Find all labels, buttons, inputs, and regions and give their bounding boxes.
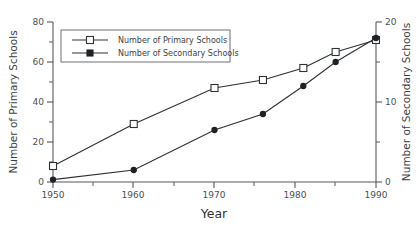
data-point (212, 127, 217, 132)
x-tick-label: 1990 (365, 190, 388, 200)
chart-canvas: 0 20 40 60 80 0 10 20 (0, 0, 420, 227)
x-axis-title: Year (200, 206, 228, 221)
legend-marker-secondary (87, 50, 93, 56)
data-point (130, 121, 137, 128)
y-left-tick-label: 0 (38, 177, 44, 187)
y-right-tick-label: 10 (385, 97, 397, 107)
y-axis-right-title: Number of Secondary Schools (400, 23, 412, 181)
data-point (333, 59, 338, 64)
x-tick-label: 1980 (284, 190, 307, 200)
x-tick-label: 1970 (203, 190, 226, 200)
y-left-tick-label: 20 (33, 137, 45, 147)
data-point (50, 163, 57, 170)
x-tick-label: 1950 (42, 190, 65, 200)
y-left-tick-label: 40 (33, 97, 45, 107)
data-point (50, 177, 55, 182)
data-point (211, 85, 218, 92)
legend-label-primary: Number of Primary Schools (118, 36, 227, 45)
y-left-tick-label: 60 (33, 57, 45, 67)
y-axis-left-title: Number of Primary Schools (7, 30, 19, 173)
data-point (300, 65, 307, 72)
data-point (301, 83, 306, 88)
legend-marker-primary (87, 37, 94, 44)
data-point (332, 49, 339, 56)
y-left-tick-label: 80 (33, 17, 45, 27)
chart-legend: Number of Primary Schools Number of Seco… (61, 30, 239, 62)
data-point (259, 77, 266, 84)
y-right-tick-label: 0 (385, 177, 391, 187)
x-ticks: 1950 1960 1970 1980 1990 (42, 182, 388, 200)
x-tick-label: 1960 (122, 190, 145, 200)
data-point (260, 111, 265, 116)
chart-figure: 0 20 40 60 80 0 10 20 (0, 0, 420, 227)
y-right-tick-label: 20 (385, 17, 397, 27)
legend-label-secondary: Number of Secondary Schools (118, 49, 239, 58)
data-point (131, 167, 136, 172)
data-point (373, 35, 378, 40)
y-left-ticks: 0 20 40 60 80 (33, 17, 53, 187)
